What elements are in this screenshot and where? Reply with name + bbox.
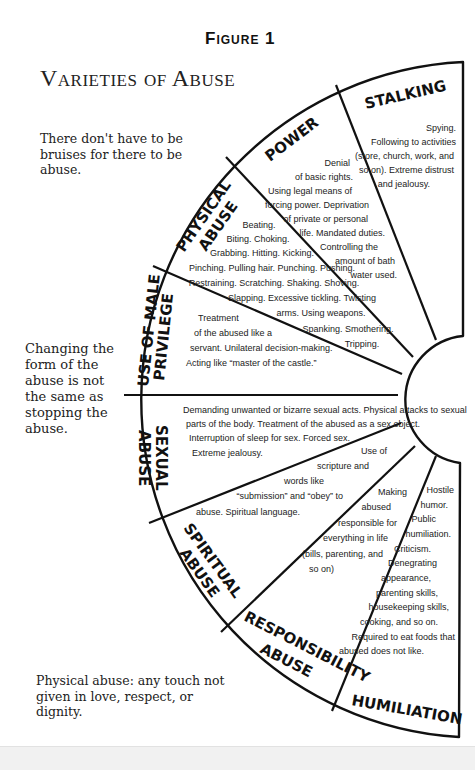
svg-text:forcing power. Deprivation: forcing power. Deprivation <box>265 200 369 210</box>
svg-text:Denial: Denial <box>324 158 350 168</box>
svg-text:Use of: Use of <box>361 446 388 456</box>
svg-text:Tripping.: Tripping. <box>345 339 380 349</box>
svg-text:life. Mandated duties.: life. Mandated duties. <box>299 228 385 238</box>
svg-text:(bills, parenting, and: (bills, parenting, and <box>302 549 383 559</box>
svg-text:so on). Extreme distrust: so on). Extreme distrust <box>359 165 455 175</box>
svg-text:(store, church, work, and: (store, church, work, and <box>355 151 454 161</box>
svg-text:everything in life: everything in life <box>323 533 388 543</box>
svg-text:Demanding unwanted or bizarre: Demanding unwanted or bizarre sexual act… <box>183 405 467 415</box>
svg-text:Beating.: Beating. <box>242 220 275 230</box>
svg-text:Controlling the: Controlling the <box>320 242 378 252</box>
svg-text:humiliation.: humiliation. <box>405 529 451 539</box>
svg-text:of the abused like a: of the abused like a <box>194 328 272 338</box>
svg-text:housekeeping skills,: housekeeping skills, <box>368 602 449 612</box>
svg-text:Spying.: Spying. <box>426 123 456 133</box>
svg-text:Using legal means of: Using legal means of <box>268 186 353 196</box>
svg-text:Denegrating: Denegrating <box>388 558 437 568</box>
svg-text:abused does not like.: abused does not like. <box>339 646 424 656</box>
segment-label-sexual: SEXUAL <box>152 425 170 491</box>
svg-text:of basic rights.: of basic rights. <box>295 172 353 182</box>
svg-text:cooking, and so on.: cooking, and so on. <box>360 617 438 627</box>
svg-text:abused: abused <box>361 502 391 512</box>
svg-text:Criticism.: Criticism. <box>394 544 431 554</box>
svg-text:arms. Using weapons.: arms. Using weapons. <box>276 308 365 318</box>
svg-text:and jealousy.: and jealousy. <box>378 179 430 189</box>
svg-text:“submission” and “obey” to: “submission” and “obey” to <box>236 491 343 501</box>
svg-text:Acting like “master of the cas: Acting like “master of the castle.” <box>186 358 317 368</box>
svg-text:Required to eat foods that: Required to eat foods that <box>351 632 455 642</box>
svg-text:Restraining. Scratching. Shaki: Restraining. Scratching. Shaking. Shovin… <box>189 278 360 288</box>
svg-text:Pinching. Pulling hair. Punchi: Pinching. Pulling hair. Punching. Pushin… <box>189 263 355 273</box>
svg-text:humor.: humor. <box>420 500 448 510</box>
svg-text:Public: Public <box>411 514 436 524</box>
svg-text:Biting. Choking.: Biting. Choking. <box>226 234 289 244</box>
svg-text:abuse. Spiritual language.: abuse. Spiritual language. <box>196 507 300 517</box>
svg-text:Grabbing. Hitting. Kicking.: Grabbing. Hitting. Kicking. <box>210 248 314 258</box>
svg-text:responsible for: responsible for <box>338 518 397 528</box>
svg-text:servant. Unilateral decision-m: servant. Unilateral decision-making. <box>190 343 333 353</box>
svg-text:Making: Making <box>378 487 407 497</box>
svg-text:Spanking. Smothering.: Spanking. Smothering. <box>302 324 393 334</box>
svg-text:so on): so on) <box>309 564 334 574</box>
svg-text:Extreme jealousy.: Extreme jealousy. <box>192 448 263 458</box>
svg-text:Treatment: Treatment <box>198 313 239 323</box>
svg-text:Hostile: Hostile <box>426 485 454 495</box>
svg-text:parenting skills,: parenting skills, <box>376 588 438 598</box>
svg-text:parts of the body. Treatment o: parts of the body. Treatment of the abus… <box>186 419 420 429</box>
svg-text:Following to activities: Following to activities <box>371 137 457 147</box>
segment-label-sexual-abuse: ABUSE <box>135 430 153 486</box>
svg-text:words like: words like <box>283 476 324 486</box>
svg-text:of private or personal: of private or personal <box>283 214 368 224</box>
svg-text:scripture and: scripture and <box>317 461 369 471</box>
svg-text:appearance,: appearance, <box>381 573 431 583</box>
svg-text:Interruption of sleep for sex.: Interruption of sleep for sex. Forced se… <box>189 433 350 443</box>
svg-text:Slapping. Excessive tickling.: Slapping. Excessive tickling. Twisting <box>228 293 376 303</box>
